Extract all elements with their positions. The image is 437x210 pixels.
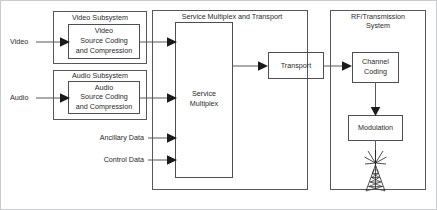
input-audio-label: Audio xyxy=(10,93,28,102)
group-rf-transmission-system xyxy=(331,11,426,190)
connector-video-to-service-multiplex xyxy=(139,37,177,47)
block-audio-source-coding-line1: Audio xyxy=(95,83,113,92)
group-audio-subsystem-label: Audio Subsystem xyxy=(72,71,128,80)
connector-channel-coding-to-modulation xyxy=(371,82,381,116)
block-channel-coding-line1: Channel xyxy=(362,57,389,66)
block-modulation-line1: Modulation xyxy=(358,123,393,132)
block-audio-source-coding-line3: and Compression xyxy=(76,102,132,111)
diagram-canvas: Video Subsystem Video Source Coding and … xyxy=(0,0,437,210)
connector-transport-to-channel-coding xyxy=(323,61,352,71)
block-video-source-coding-line1: Video xyxy=(95,26,113,35)
connector-service-multiplex-to-transport xyxy=(232,61,268,71)
connector-audio-to-service-multiplex xyxy=(139,93,177,103)
block-channel-coding-line2: Coding xyxy=(364,67,387,76)
block-video-source-coding-line2: Source Coding xyxy=(80,36,128,45)
block-transport-line1: Transport xyxy=(281,61,312,70)
group-video-subsystem-label: Video Subsystem xyxy=(72,13,128,22)
group-service-multiplex-and-transport-label: Service Multiplex and Transport xyxy=(182,12,283,21)
block-service-multiplex-line1: Service xyxy=(192,89,216,98)
group-rf-transmission-system-label-line1: RF/Transmission xyxy=(351,12,405,21)
input-ancillary-data-label: Ancillary Data xyxy=(100,133,144,142)
input-video-label: Video xyxy=(10,37,28,46)
group-rf-transmission-system-label-line2: System xyxy=(366,21,390,30)
system-block-diagram: Video Subsystem Video Source Coding and … xyxy=(0,0,437,210)
block-service-multiplex-line2: Multiplex xyxy=(190,99,219,108)
block-video-source-coding-line3: and Compression xyxy=(76,46,132,55)
block-audio-source-coding-line2: Source Coding xyxy=(80,92,128,101)
input-control-data-label: Control Data xyxy=(104,155,144,164)
